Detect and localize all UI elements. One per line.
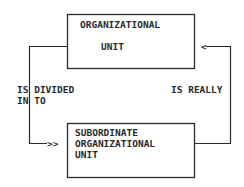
- node-label-line: ORGANIZATIONAL: [80, 19, 160, 30]
- edge-is-really: < IS REALLY: [171, 41, 231, 144]
- arrow-left-icon: <: [201, 41, 207, 52]
- relationship-diagram: ORGANIZATIONAL UNIT SUBORDINATE ORGANIZA…: [0, 0, 244, 187]
- node-label-line: UNIT: [101, 41, 124, 52]
- node-organizational-unit: ORGANIZATIONAL UNIT: [68, 15, 195, 69]
- edge-is-divided-into: >> IS DIVIDED IN TO: [17, 47, 74, 150]
- node-label-line: ORGANIZATIONAL: [75, 138, 155, 149]
- node-subordinate-organizational-unit: SUBORDINATE ORGANIZATIONAL UNIT: [68, 124, 195, 178]
- edge-label-line: IS DIVIDED: [17, 84, 74, 95]
- double-arrow-right-icon: >>: [47, 138, 59, 149]
- edge-label-line: IS REALLY: [171, 84, 223, 95]
- node-label-line: SUBORDINATE: [75, 127, 138, 138]
- edge-label-line: IN TO: [17, 95, 46, 106]
- connector-line: [194, 47, 231, 144]
- node-label-line: UNIT: [75, 149, 98, 160]
